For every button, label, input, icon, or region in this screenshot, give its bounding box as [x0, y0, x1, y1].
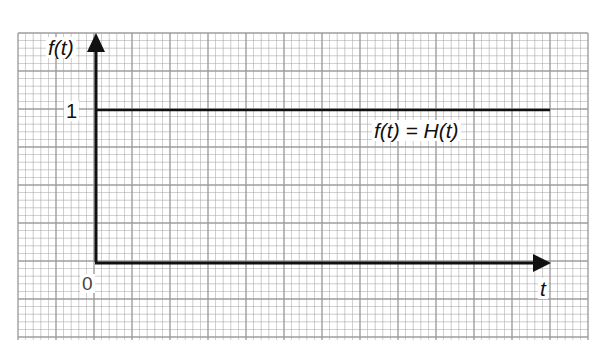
chart-canvas [0, 0, 604, 350]
y-axis-label: f(t) [46, 37, 76, 58]
x-axis-arrow-icon [533, 254, 551, 272]
graph-paper-grid [18, 33, 588, 340]
origin-label: 0 [80, 274, 95, 293]
y-tick-1: 1 [64, 101, 79, 121]
y-axis-arrow-icon [87, 33, 105, 52]
x-axis-label: t [538, 278, 548, 299]
function-label: f(t) = H(t) [372, 120, 461, 141]
